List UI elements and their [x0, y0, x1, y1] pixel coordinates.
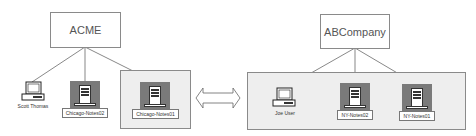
node-label: Chicago-Notes02 [62, 108, 108, 118]
server-node[interactable] [140, 82, 170, 109]
org-title: ABCompany [324, 26, 386, 38]
node-label: NY-Notes01 [399, 111, 435, 121]
node-label: NY-Notes02 [337, 110, 373, 120]
server-icon [79, 85, 91, 104]
server-icon [149, 86, 161, 105]
server-node[interactable] [402, 84, 432, 111]
workstation-node[interactable] [271, 87, 299, 111]
workstation-icon [271, 87, 299, 109]
server-icon [349, 87, 361, 106]
node-label: Joe User [265, 110, 305, 116]
double-arrow-icon [195, 87, 241, 109]
server-icon [411, 88, 423, 107]
server-node[interactable] [340, 83, 370, 110]
org-title: ACME [70, 24, 102, 36]
node-label: Chicago-Notes01 [132, 109, 179, 119]
workstation-icon [20, 81, 48, 103]
server-node[interactable] [70, 81, 100, 108]
org-box-abcompany[interactable]: ABCompany [320, 14, 390, 49]
node-label: Scott Thomas [13, 103, 53, 109]
org-box-acme[interactable]: ACME [50, 12, 121, 48]
workstation-node[interactable] [20, 81, 48, 105]
